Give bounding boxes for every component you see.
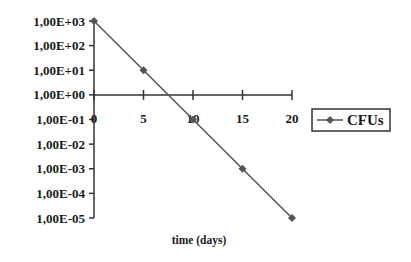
y-tick-label: 1,00E+03: [33, 14, 85, 29]
x-tick-label: 20: [286, 111, 299, 126]
x-axis-title: time (days): [172, 234, 227, 247]
x-tick-label: 0: [91, 111, 98, 126]
y-tick-label: 1,00E+00: [33, 87, 85, 102]
series-cfus: [90, 17, 296, 222]
y-tick-label: 1,00E-02: [36, 137, 85, 152]
chart-canvas: 1,00E+031,00E+021,00E+011,00E+001,00E-01…: [0, 0, 411, 262]
y-axis: 1,00E+031,00E+021,00E+011,00E+001,00E-01…: [33, 14, 94, 226]
y-tick-label: 1,00E-01: [36, 112, 85, 127]
y-tick-label: 1,00E-04: [36, 186, 85, 201]
y-tick-label: 1,00E-03: [36, 161, 85, 176]
legend: CFUs: [312, 109, 390, 131]
x-tick-label: 5: [140, 111, 147, 126]
y-tick-label: 1,00E+02: [33, 38, 85, 53]
legend-label: CFUs: [347, 112, 384, 128]
y-tick-label: 1,00E+01: [33, 63, 85, 78]
x-tick-label: 15: [236, 111, 250, 126]
y-tick-label: 1,00E-05: [36, 211, 85, 226]
